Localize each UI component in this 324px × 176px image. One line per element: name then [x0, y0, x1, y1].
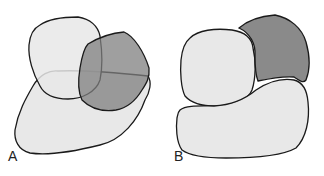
panel-b-label: B	[174, 148, 183, 164]
panel-a	[15, 17, 150, 154]
panel-b	[177, 15, 309, 158]
panel-b-upper-left-shape	[181, 29, 255, 106]
panel-a-label: A	[8, 148, 17, 164]
diagram-canvas	[0, 0, 324, 176]
